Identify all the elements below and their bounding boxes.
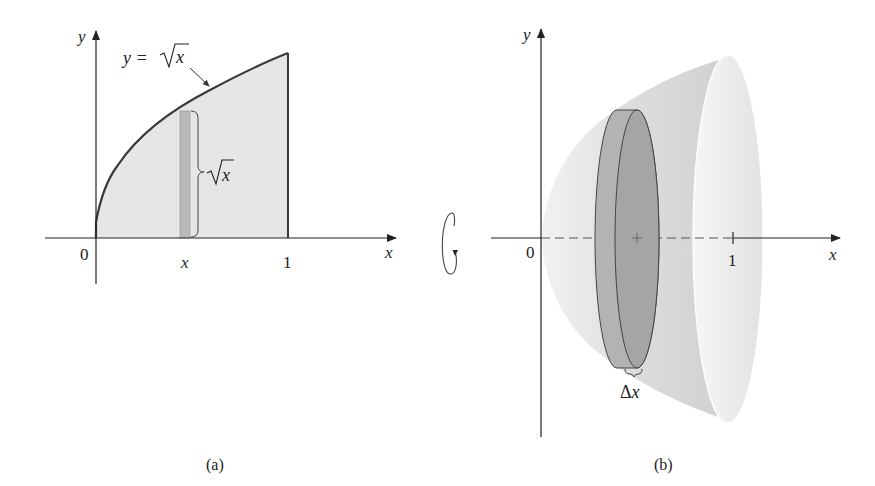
delta-x-label: Δx [620,382,640,402]
y-axis-label-a: y [76,27,86,46]
delta-var: x [631,382,640,402]
figure-canvas: y x 0 x 1 y = x x (a) [0,0,875,486]
x-axis-label-a: x [384,243,393,262]
strip-x-label: x [180,253,189,272]
panel-b: y x 0 1 Δx (b) [491,25,840,474]
region-under-curve [96,53,288,238]
panel-a: y x 0 x 1 y = x x (a) [45,27,396,474]
curve-label-rhs: x [175,47,184,67]
caption-a: (a) [206,456,224,474]
caption-b: (b) [654,456,673,474]
representative-strip [180,111,190,238]
origin-label-a: 0 [80,245,89,264]
one-label-b: 1 [728,251,737,270]
one-label-a: 1 [283,253,292,272]
x-axis-label-b: x [828,245,837,264]
rotation-arrow-icon [442,213,458,274]
curve-pointer-arrow [190,68,209,86]
origin-label-b: 0 [526,243,535,262]
y-axis-label-b: y [521,25,531,44]
curve-equation-label: y = x [121,44,189,68]
strip-height-text: x [221,165,230,185]
sqrt-radical-icon [160,44,189,67]
curve-label-lhs: y = [121,48,148,68]
representative-disk [595,110,659,368]
solid-end-face [693,55,763,423]
delta-symbol: Δ [620,382,632,402]
